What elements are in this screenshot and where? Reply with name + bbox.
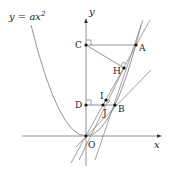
point-H bbox=[122, 66, 125, 69]
point-J bbox=[101, 103, 104, 106]
y-axis-label: y bbox=[88, 6, 95, 17]
y-axis-arrow-icon bbox=[84, 18, 88, 23]
line-AB bbox=[95, 20, 143, 160]
point-I bbox=[104, 98, 107, 101]
curve-label: y = ax2 bbox=[8, 10, 46, 22]
point-B bbox=[113, 103, 116, 106]
label-D: D bbox=[75, 100, 82, 110]
label-O: O bbox=[88, 140, 95, 150]
point-A bbox=[134, 43, 137, 46]
label-C: C bbox=[75, 40, 82, 50]
parabola-diagram: y = ax2 y x A B C D H I J O bbox=[0, 0, 172, 169]
label-J: J bbox=[102, 108, 107, 118]
point-D bbox=[84, 103, 87, 106]
line-OA bbox=[71, 20, 150, 163]
segment-CH bbox=[86, 45, 124, 68]
x-axis-arrow-icon bbox=[157, 134, 162, 138]
label-B: B bbox=[118, 104, 125, 114]
label-A: A bbox=[138, 43, 146, 53]
label-I: I bbox=[100, 91, 104, 101]
label-H: H bbox=[113, 66, 121, 76]
x-axis-label: x bbox=[154, 139, 160, 150]
point-O bbox=[85, 135, 88, 138]
point-C bbox=[84, 43, 87, 46]
